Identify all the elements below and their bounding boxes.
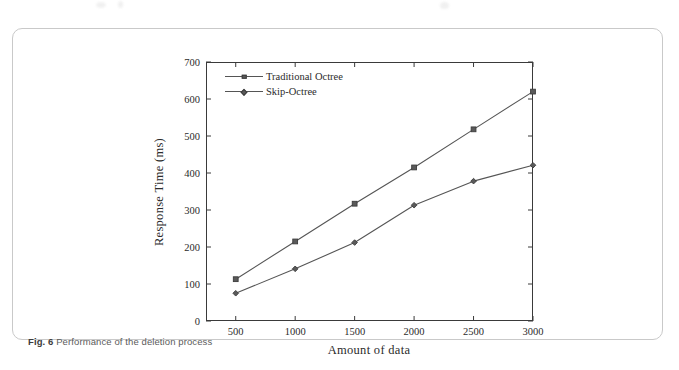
data-point-marker	[411, 202, 417, 208]
data-point-marker	[352, 240, 358, 246]
data-point-marker	[352, 201, 357, 206]
legend-sample	[225, 71, 263, 83]
x-axis-tick-label: 500	[228, 326, 244, 337]
legend-item-traditional-octree: Traditional Octree	[225, 70, 375, 83]
data-point-marker	[471, 178, 477, 184]
legend-sample	[225, 86, 263, 98]
scan-artifact	[118, 1, 123, 8]
y-axis-tick-label: 700	[164, 57, 200, 68]
x-axis-tick-label: 2500	[463, 326, 484, 337]
data-point-marker	[233, 277, 238, 282]
y-axis-tick-label: 500	[164, 131, 200, 142]
series-line-0	[236, 92, 533, 280]
y-axis-tick-label: 100	[164, 279, 200, 290]
x-axis-tick-label: 1000	[285, 326, 306, 337]
scan-artifact	[96, 2, 106, 8]
y-axis-tick-label: 600	[164, 94, 200, 105]
data-point-marker	[471, 127, 476, 132]
x-axis-title: Amount of data	[328, 343, 411, 358]
legend-label: Skip-Octree	[266, 86, 317, 97]
figure-card: Response Time (ms) Amount of data 010020…	[12, 28, 663, 340]
plot-canvas	[206, 62, 533, 321]
caption-figure-number: Fig. 6	[28, 336, 53, 347]
y-axis-title: Response Time (ms)	[152, 138, 167, 246]
x-axis-tick-label: 2000	[404, 326, 425, 337]
chart-legend: Traditional OctreeSkip-Octree	[225, 70, 375, 100]
y-axis-tick-label: 400	[164, 168, 200, 179]
caption-text: Performance of the deletion process	[56, 336, 212, 347]
scan-artifact	[440, 2, 449, 9]
square-marker-icon	[242, 74, 247, 79]
y-axis-tick-label: 200	[164, 242, 200, 253]
plot-area	[206, 62, 533, 321]
data-point-marker	[530, 162, 536, 168]
data-point-marker	[233, 290, 239, 296]
legend-item-skip-octree: Skip-Octree	[225, 85, 375, 98]
x-axis-tick-label: 3000	[523, 326, 544, 337]
data-point-marker	[531, 89, 536, 94]
series-line-1	[236, 165, 533, 293]
y-axis-tick-label: 0	[164, 316, 200, 327]
x-axis-tick-label: 1500	[344, 326, 365, 337]
y-axis-tick-label: 300	[164, 205, 200, 216]
data-point-marker	[293, 239, 298, 244]
data-point-marker	[292, 266, 298, 272]
figure-caption: Fig. 6 Performance of the deletion proce…	[28, 336, 212, 347]
diamond-marker-icon	[241, 88, 247, 94]
legend-label: Traditional Octree	[266, 71, 343, 82]
figure-page: Response Time (ms) Amount of data 010020…	[0, 0, 679, 370]
data-point-marker	[412, 165, 417, 170]
